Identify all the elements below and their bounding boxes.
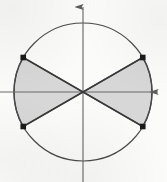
point-lower-left: [20, 124, 26, 130]
circle-sector-diagram: [0, 0, 167, 182]
figure-container: [0, 0, 167, 182]
point-upper-left: [20, 55, 26, 61]
point-lower-right: [140, 124, 146, 130]
point-upper-right: [140, 55, 146, 61]
